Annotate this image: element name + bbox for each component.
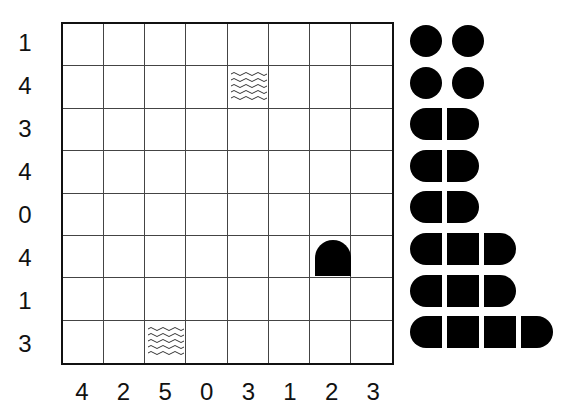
grid-cell[interactable]	[186, 151, 227, 193]
grid-cell[interactable]	[104, 151, 145, 193]
ship-segment-icon	[447, 233, 479, 265]
ship-top-end-icon	[315, 240, 351, 276]
fleet-row	[410, 108, 484, 142]
column-clue: 0	[186, 372, 228, 412]
row-clue: 4	[0, 236, 50, 279]
ship-segment-icon	[410, 275, 442, 307]
puzzle-grid	[61, 22, 394, 365]
grid-cell[interactable]	[145, 194, 186, 236]
grid-cell[interactable]	[351, 321, 392, 363]
grid-cell[interactable]	[351, 66, 392, 108]
grid-cell[interactable]	[145, 24, 186, 66]
grid-cell[interactable]	[63, 194, 104, 236]
grid-cell[interactable]	[186, 24, 227, 66]
fleet-row	[410, 233, 521, 267]
grid-cell[interactable]	[186, 109, 227, 151]
fleet-row	[410, 275, 521, 309]
ship-segment-icon	[484, 233, 516, 265]
grid-cell[interactable]	[104, 321, 145, 363]
row-clue: 1	[0, 22, 50, 65]
grid-cell[interactable]	[310, 236, 351, 278]
submarine-icon	[410, 25, 442, 57]
grid-cell[interactable]	[186, 321, 227, 363]
grid-cell[interactable]	[228, 194, 269, 236]
water-icon	[231, 69, 267, 105]
row-clue: 3	[0, 108, 50, 151]
grid-cell[interactable]	[63, 151, 104, 193]
grid-cell[interactable]	[104, 236, 145, 278]
grid-cell[interactable]	[351, 194, 392, 236]
fleet-row	[410, 150, 484, 184]
grid-cell[interactable]	[351, 109, 392, 151]
ship-segment-icon	[410, 233, 442, 265]
grid-cell[interactable]	[63, 278, 104, 320]
grid-cell[interactable]	[269, 151, 310, 193]
grid-cell[interactable]	[104, 24, 145, 66]
grid-cell[interactable]	[351, 151, 392, 193]
ship-segment-icon	[410, 150, 442, 182]
column-clue: 3	[228, 372, 270, 412]
grid-cell[interactable]	[145, 151, 186, 193]
grid-cell[interactable]	[104, 278, 145, 320]
ship-segment-icon	[447, 108, 479, 140]
grid-cell[interactable]	[63, 66, 104, 108]
grid-cell[interactable]	[269, 321, 310, 363]
grid-cell[interactable]	[228, 321, 269, 363]
grid-cell[interactable]	[351, 236, 392, 278]
grid-cell[interactable]	[63, 236, 104, 278]
grid-cell[interactable]	[63, 109, 104, 151]
fleet-row	[410, 316, 558, 350]
grid-cell[interactable]	[145, 236, 186, 278]
grid-cell[interactable]	[269, 66, 310, 108]
column-clues: 4 2 5 0 3 1 2 3	[61, 372, 394, 412]
grid-cell[interactable]	[310, 321, 351, 363]
grid-cell[interactable]	[310, 24, 351, 66]
row-clue: 4	[0, 151, 50, 194]
grid-cell[interactable]	[145, 66, 186, 108]
grid-cell[interactable]	[269, 236, 310, 278]
grid-cell[interactable]	[228, 278, 269, 320]
grid-cell[interactable]	[145, 109, 186, 151]
grid-cell[interactable]	[310, 109, 351, 151]
grid-cell[interactable]	[310, 151, 351, 193]
grid-cell[interactable]	[228, 24, 269, 66]
grid-cell[interactable]	[186, 66, 227, 108]
grid-cell[interactable]	[269, 24, 310, 66]
grid-cell[interactable]	[186, 278, 227, 320]
grid-cell[interactable]	[269, 109, 310, 151]
fleet-row	[410, 25, 494, 59]
grid-cell[interactable]	[186, 194, 227, 236]
grid-cell[interactable]	[104, 194, 145, 236]
submarine-icon	[452, 25, 484, 57]
grid-cell[interactable]	[63, 24, 104, 66]
fleet-row	[410, 67, 494, 101]
water-icon	[148, 324, 184, 360]
column-clue: 4	[61, 372, 103, 412]
column-clue: 3	[352, 372, 394, 412]
row-clue: 1	[0, 279, 50, 322]
grid-cell[interactable]	[228, 109, 269, 151]
grid-cell[interactable]	[310, 194, 351, 236]
grid-cell[interactable]	[104, 109, 145, 151]
grid-cell[interactable]	[228, 236, 269, 278]
grid-cell[interactable]	[63, 321, 104, 363]
grid-cell[interactable]	[228, 151, 269, 193]
grid-cell[interactable]	[269, 194, 310, 236]
grid-cell[interactable]	[269, 278, 310, 320]
ship-segment-icon	[410, 191, 442, 223]
grid-cell[interactable]	[351, 278, 392, 320]
grid-cell[interactable]	[145, 321, 186, 363]
grid-cell[interactable]	[186, 236, 227, 278]
ship-segment-icon	[410, 108, 442, 140]
grid-cell[interactable]	[351, 24, 392, 66]
ship-segment-icon	[521, 316, 553, 348]
ship-segment-icon	[410, 316, 442, 348]
grid-cell[interactable]	[310, 278, 351, 320]
fleet-row	[410, 191, 484, 225]
grid-cell[interactable]	[145, 278, 186, 320]
row-clue: 4	[0, 65, 50, 108]
grid-cell[interactable]	[228, 66, 269, 108]
column-clue: 2	[311, 372, 353, 412]
grid-cell[interactable]	[310, 66, 351, 108]
grid-cell[interactable]	[104, 66, 145, 108]
